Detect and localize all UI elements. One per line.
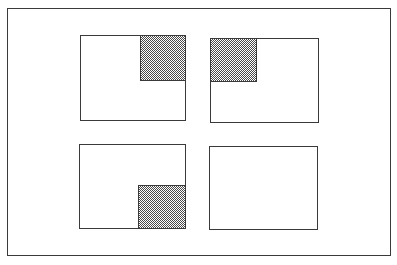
outer-frame xyxy=(7,8,391,256)
shaded-quadrant-top-right-panel xyxy=(210,38,257,82)
panel-bottom-right xyxy=(209,146,318,230)
shaded-quadrant-top-left-panel xyxy=(140,35,186,81)
shaded-quadrant-bottom-left-panel xyxy=(138,185,186,229)
diagram-canvas xyxy=(0,0,397,265)
